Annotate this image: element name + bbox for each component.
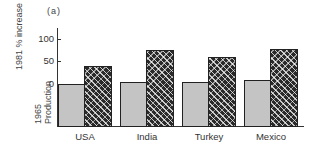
x-label-turkey: Turkey	[179, 131, 239, 142]
bar-mexico-1981	[270, 49, 298, 127]
x-label-usa: USA	[55, 131, 115, 142]
bar-turkey-1981	[208, 57, 236, 127]
y-tick-label-0: 0	[32, 78, 54, 89]
y-tick-label-100: 100	[32, 33, 54, 44]
panel-label: (a)	[47, 6, 61, 16]
bar-usa-1965	[58, 84, 85, 127]
y-axis-title-increase: 1981 % increase	[14, 0, 26, 70]
y-tick-50	[57, 61, 61, 62]
bar-turkey-1965	[182, 82, 209, 127]
x-label-india: India	[117, 131, 177, 142]
y-tick-100	[57, 39, 61, 40]
bar-mexico-1965	[244, 80, 271, 127]
y-axis-title-1965: 1965	[33, 104, 43, 124]
bar-india-1965	[120, 82, 147, 127]
bar-usa-1981	[84, 66, 112, 127]
bar-india-1981	[146, 50, 174, 127]
y-tick-label-50: 50	[32, 55, 54, 66]
x-label-mexico: Mexico	[241, 131, 301, 142]
